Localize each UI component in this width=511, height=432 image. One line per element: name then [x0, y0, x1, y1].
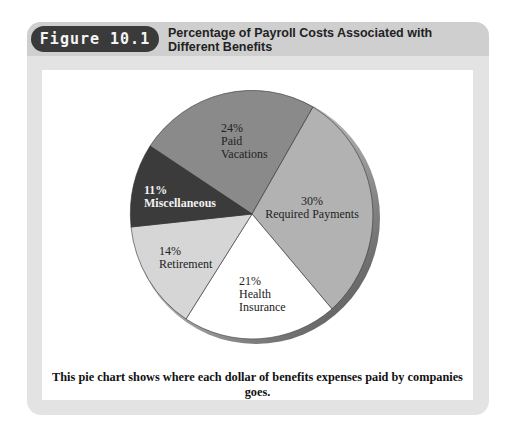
label-required-payments-pct: 30% [301, 194, 323, 208]
label-retirement-pct: 14% [159, 244, 181, 258]
label-required-payments-line1: Required Payments [265, 207, 359, 221]
figure-caption: This pie chart shows where each dollar o… [42, 370, 473, 400]
label-health-insurance-line1: Health [239, 287, 271, 301]
label-retirement-line1: Retirement [159, 257, 213, 271]
label-paid-vacations-line2: Vacations [221, 147, 268, 161]
label-health-insurance-pct: 21% [239, 274, 261, 288]
pie-chart: 24% Paid Vacations 30% Required Payments… [0, 0, 511, 432]
label-health-insurance-line2: Insurance [239, 300, 286, 314]
label-paid-vacations-line1: Paid [221, 134, 242, 148]
label-paid-vacations-pct: 24% [221, 121, 243, 135]
label-miscellaneous-pct: 11% [144, 183, 167, 197]
label-miscellaneous-line1: Miscellaneous [144, 196, 216, 210]
